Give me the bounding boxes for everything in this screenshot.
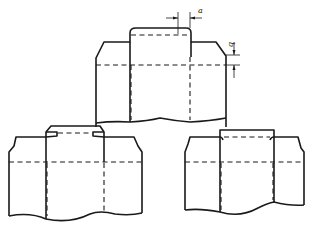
bl-key-seat-left [46, 132, 57, 137]
view-bottom-right [185, 130, 304, 214]
bl-key-seat-right [93, 132, 104, 137]
label-b: b [227, 42, 236, 47]
top-outline [96, 28, 226, 127]
bl-break-line [9, 212, 142, 221]
view-top: a b [96, 6, 240, 127]
label-a: a [198, 6, 203, 15]
bl-outline [9, 126, 142, 216]
dimension-a: a [166, 6, 203, 34]
br-outline [185, 130, 304, 210]
technical-drawing: a b [0, 0, 316, 234]
view-bottom-left [9, 126, 142, 221]
br-break-line [185, 202, 304, 214]
top-break-line [96, 118, 226, 123]
dimension-b: b [226, 42, 240, 78]
